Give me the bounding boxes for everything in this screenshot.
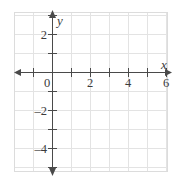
y-tick-label-2: 2 [27, 29, 47, 42]
y-axis-label: y [57, 14, 63, 27]
x-axis-label: x [161, 58, 167, 71]
x-tick-label-4: 4 [125, 77, 131, 90]
x-tick-label-6: 6 [163, 77, 169, 90]
coordinate-grid-figure: y x 0 2 4 6 2 –2 –4 [0, 0, 177, 183]
x-tick-label-2: 2 [87, 77, 93, 90]
coordinate-plane [0, 0, 177, 183]
y-tick-label-neg4: –4 [21, 143, 47, 156]
x-tick-label-0: 0 [44, 77, 50, 90]
y-tick-label-neg2: –2 [21, 105, 47, 118]
